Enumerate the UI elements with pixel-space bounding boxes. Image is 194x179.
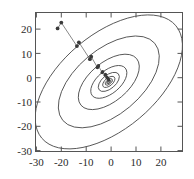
iterate-marker (89, 55, 93, 59)
x-tick-label: -20 (54, 156, 69, 168)
y-tick-label: -10 (17, 96, 32, 108)
y-tick-label: -20 (17, 120, 32, 132)
x-tick-label: 20 (155, 156, 167, 168)
y-tick-label: -30 (17, 145, 32, 157)
x-tick-label: 0 (108, 156, 114, 168)
iterate-marker (101, 70, 104, 73)
y-tick-label: 20 (21, 23, 33, 35)
iterate-marker (77, 40, 81, 44)
iterate-marker (56, 27, 60, 31)
y-tick-label: 10 (21, 48, 33, 60)
x-tick-label: -10 (79, 156, 94, 168)
contour-convergence-figure: 20 10 0 -10 -20 -30 -30 -20 -10 0 10 20 (0, 0, 194, 179)
iterate-marker (108, 79, 110, 81)
x-tick-label: -30 (29, 156, 44, 168)
iterate-marker (75, 44, 79, 48)
x-tick-label: 10 (131, 156, 143, 168)
iterate-marker (97, 64, 101, 68)
y-tick-label: 0 (27, 72, 33, 84)
plot-canvas: 20 10 0 -10 -20 -30 -30 -20 -10 0 10 20 (0, 0, 194, 179)
iterate-marker (59, 21, 63, 25)
